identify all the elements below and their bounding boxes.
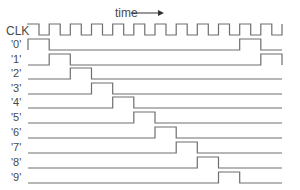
clk-label: CLK: [6, 24, 29, 38]
signal-9-waveform: [28, 172, 282, 183]
signal-1-waveform: [28, 54, 282, 65]
signal-label: '8': [11, 156, 21, 168]
waveforms: [27, 24, 282, 183]
signal-label: '1': [11, 53, 21, 65]
signal-0-waveform: [28, 39, 282, 50]
signal-label: '6': [11, 126, 21, 138]
time-indicator: time: [115, 6, 164, 20]
signal-5-waveform: [28, 112, 282, 123]
signal-label: '7': [11, 141, 21, 153]
signal-label: '3': [11, 82, 21, 94]
signal-2-waveform: [28, 68, 282, 79]
signal-4-waveform: [28, 97, 282, 108]
signal-label: '0': [11, 38, 21, 50]
signal-label: '5': [11, 111, 21, 123]
clk-waveform: [27, 24, 282, 35]
signal-7-waveform: [28, 142, 282, 153]
signal-labels: CLK'0''1''2''3''4''5''6''7''8''9': [6, 24, 29, 183]
signal-3-waveform: [28, 83, 282, 94]
signal-label: '4': [11, 96, 21, 108]
arrow-right-icon: [158, 10, 164, 16]
signal-6-waveform: [28, 127, 282, 138]
signal-8-waveform: [28, 157, 282, 168]
signal-label: '9': [11, 171, 21, 183]
signal-label: '2': [11, 67, 21, 79]
timing-diagram: time CLK'0''1''2''3''4''5''6''7''8''9': [0, 0, 300, 190]
